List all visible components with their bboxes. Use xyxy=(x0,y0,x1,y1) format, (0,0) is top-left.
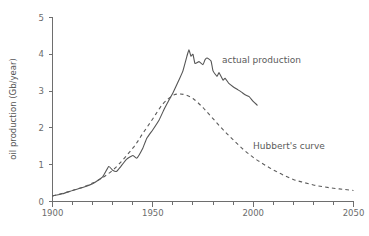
y-axis-tick-labels: 0 1 2 3 4 5 xyxy=(39,13,44,207)
y-tick-label: 5 xyxy=(39,13,44,23)
series-line-actual-production xyxy=(53,50,258,196)
series-label-hubberts-curve: Hubbert's curve xyxy=(253,141,325,151)
y-tick-label: 4 xyxy=(39,49,44,59)
x-tick-label: 2000 xyxy=(242,208,264,218)
x-axis-tick-labels: 1900 1950 2000 2050 xyxy=(42,208,365,218)
y-tick-label: 0 xyxy=(39,197,44,207)
y-axis-title: oil production (Gb/year) xyxy=(8,58,18,159)
chart-canvas: 0 1 2 3 4 5 xyxy=(0,0,369,236)
y-tick-label: 1 xyxy=(39,160,44,170)
x-tick-label: 1950 xyxy=(142,208,164,218)
x-tick-label: 2050 xyxy=(343,208,365,218)
y-tick-label: 2 xyxy=(39,123,44,133)
y-tick-label: 3 xyxy=(39,86,44,96)
series-label-actual-production: actual production xyxy=(222,55,301,65)
chart-figure: 0 1 2 3 4 5 xyxy=(0,0,369,236)
x-tick-label: 1900 xyxy=(42,208,64,218)
x-axis-major-ticks xyxy=(53,202,354,207)
y-axis-ticks xyxy=(49,18,53,202)
